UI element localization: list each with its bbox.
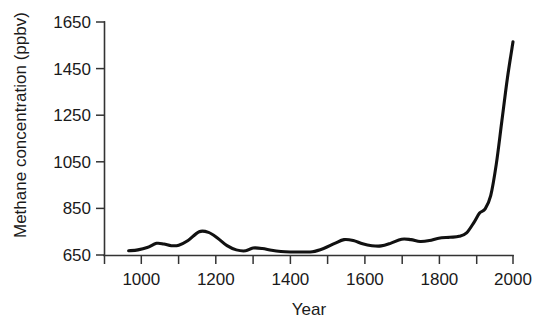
y-tick-label-650: 650 (63, 246, 91, 265)
y-tick-label-1650: 1650 (53, 13, 91, 32)
x-axis-ticks (105, 255, 514, 264)
x-axis-title: Year (292, 300, 327, 319)
y-tick-label-850: 850 (63, 199, 91, 218)
methane-line-chart: Methane concentration (ppbv) 1650 1450 1… (0, 0, 548, 330)
x-tick-label-1800: 1800 (420, 270, 458, 289)
y-tick-label-1050: 1050 (53, 153, 91, 172)
chart-figure: Methane concentration (ppbv) 1650 1450 1… (0, 0, 548, 330)
x-tick-label-1000: 1000 (122, 270, 160, 289)
x-axis-tick-labels: 1000 1200 1400 1600 1800 2000 (122, 270, 532, 289)
x-tick-label-1200: 1200 (197, 270, 235, 289)
methane-data-line (129, 42, 513, 252)
y-tick-label-1450: 1450 (53, 60, 91, 79)
y-tick-label-1250: 1250 (53, 106, 91, 125)
y-axis-ticks (96, 22, 105, 255)
y-axis-tick-labels: 1650 1450 1250 1050 850 650 (53, 13, 91, 265)
y-axis-title: Methane concentration (ppbv) (11, 12, 30, 238)
x-tick-label-1400: 1400 (271, 270, 309, 289)
x-tick-label-2000: 2000 (494, 270, 532, 289)
x-tick-label-1600: 1600 (346, 270, 384, 289)
